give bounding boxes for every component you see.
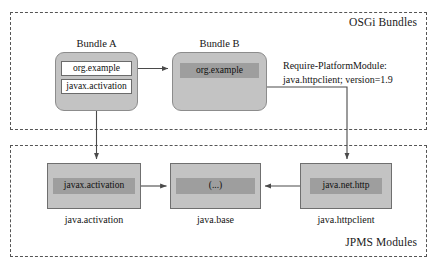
annotation-line-2: java.httpclient; version=1.9 (283, 73, 431, 87)
jpms-modules-region-label: JPMS Modules (345, 236, 417, 248)
bundle-a-package-org-example[interactable]: org.example (61, 61, 132, 76)
bundle-b-package-org-example[interactable]: org.example (180, 63, 259, 78)
bundle-a-title: Bundle A (55, 38, 138, 49)
osgi-jpms-diagram: OSGi Bundles JPMS Modules Bundle A (0, 0, 435, 264)
annotation-line-1: Require-PlatformModule: (283, 59, 431, 73)
module-java-activation-package[interactable]: javax.activation (53, 178, 135, 194)
bundle-b[interactable] (172, 52, 267, 111)
module-java-base-caption: java.base (170, 214, 261, 225)
module-java-httpclient-caption: java.httpclient (300, 214, 392, 225)
require-platform-module-annotation: Require-PlatformModule: java.httpclient;… (283, 59, 431, 86)
bundle-b-title: Bundle B (172, 38, 267, 49)
bundle-a-package-javax-activation[interactable]: javax.activation (61, 79, 132, 94)
module-java-httpclient-package[interactable]: java.net.http (310, 178, 382, 194)
osgi-bundles-region-label: OSGi Bundles (349, 16, 417, 28)
module-java-activation-caption: java.activation (47, 214, 141, 225)
module-java-base-package[interactable]: (...) (176, 178, 255, 194)
